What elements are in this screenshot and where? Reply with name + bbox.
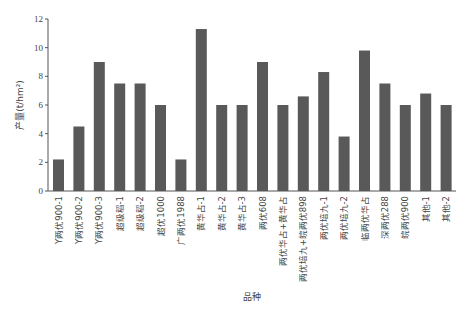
bar — [196, 29, 207, 191]
y-axis: 024681012 — [34, 14, 48, 196]
x-category-label: 两优培九-1 — [319, 196, 329, 240]
x-category-label: 广两优1988 — [176, 196, 186, 245]
x-category-label: 两优培九+皖两优898 — [298, 196, 308, 282]
bar — [318, 72, 329, 191]
bars-group — [53, 29, 452, 191]
x-category-label: 其他-2 — [441, 196, 451, 222]
bar — [339, 137, 350, 191]
x-category-label: 其他-1 — [421, 196, 431, 222]
bar — [237, 105, 248, 191]
y-axis-title: 产量(t/hm²) — [14, 80, 25, 130]
y-tick-label: 2 — [39, 157, 44, 167]
x-category-label: 深两优288 — [380, 196, 390, 239]
bar — [216, 105, 227, 191]
x-category-label: 两优培九-2 — [339, 196, 349, 240]
bar — [114, 84, 125, 192]
bar-chart: 024681012 Y两优900-1Y两优900-2Y两优900-3超级稻-1超… — [0, 0, 466, 317]
x-category-label: 两优华占+黄华占 — [278, 196, 288, 266]
bar — [441, 105, 452, 191]
x-category-label: Y两优900-1 — [54, 196, 64, 245]
x-category-label: Y两优900-2 — [74, 196, 84, 245]
y-tick-label: 4 — [39, 129, 44, 139]
y-tick-label: 10 — [34, 43, 44, 53]
y-tick-label: 0 — [39, 186, 44, 196]
bar — [298, 96, 309, 191]
x-category-label: 超级稻-1 — [115, 196, 125, 231]
y-tick-label: 6 — [39, 100, 44, 110]
bar — [379, 84, 390, 192]
x-category-label: 超优1000 — [156, 196, 166, 236]
y-tick-label: 8 — [39, 71, 44, 81]
bar — [175, 159, 186, 191]
bar — [400, 105, 411, 191]
x-axis: Y两优900-1Y两优900-2Y两优900-3超级稻-1超级稻-2超优1000… — [48, 191, 456, 282]
x-category-label: 黄华占-1 — [196, 196, 206, 231]
x-category-label: Y两优900-3 — [94, 196, 104, 245]
bar — [420, 94, 431, 191]
x-category-label: 超级稻-2 — [135, 196, 145, 231]
bar — [135, 84, 146, 192]
x-category-label: 皖两优900 — [400, 196, 410, 239]
x-category-label: 黄华占-2 — [217, 196, 227, 231]
bar — [73, 127, 84, 192]
y-tick-label: 12 — [34, 14, 43, 24]
bar — [94, 62, 105, 191]
bar — [359, 51, 370, 191]
x-category-label: 黄华占-3 — [237, 196, 247, 231]
bar — [155, 105, 166, 191]
bar — [53, 159, 64, 191]
bar — [257, 62, 268, 191]
x-axis-title: 品种 — [243, 291, 261, 302]
x-category-label: 临两优华占 — [360, 196, 370, 241]
x-category-label: 两优608 — [258, 196, 268, 230]
bar — [277, 105, 288, 191]
